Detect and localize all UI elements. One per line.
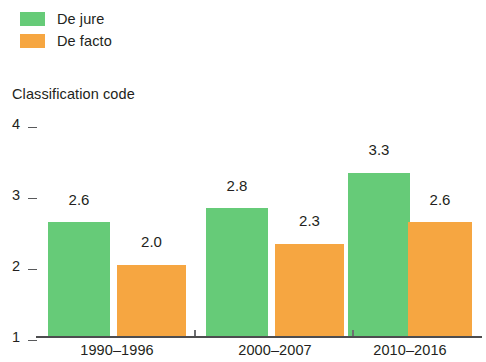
y-tick-dash: [28, 340, 37, 342]
bar-value-de-jure-1990-1996: 2.6: [48, 192, 110, 207]
x-axis-tick-2: [352, 330, 354, 336]
bar-de-facto-2000-2007[interactable]: [275, 244, 344, 336]
bar-chart: De jure De facto Classification code 4 3…: [0, 0, 486, 362]
y-tick-dash: [28, 127, 37, 129]
x-axis-line: [36, 336, 482, 338]
plot-area: 4 3 2 1 2.6 2.0 2.8 2.3 3.3 2.6: [0, 0, 486, 362]
bar-value-de-jure-2000-2007: 2.8: [206, 178, 268, 193]
y-tick-3: 3: [12, 186, 46, 204]
bar-value-de-jure-2010-2016: 3.3: [348, 142, 410, 157]
bar-de-facto-2010-2016[interactable]: [408, 222, 472, 336]
bar-value-de-facto-2010-2016: 2.6: [408, 192, 472, 207]
x-axis-label-2010-2016: 2010–2016: [348, 342, 472, 358]
y-tick-4: 4: [12, 115, 46, 133]
bar-value-de-facto-2000-2007: 2.3: [275, 213, 344, 228]
y-tick-dash: [28, 198, 37, 200]
bar-de-jure-2000-2007[interactable]: [206, 208, 268, 336]
x-axis-label-2000-2007: 2000–2007: [206, 342, 344, 358]
bar-de-facto-1990-1996[interactable]: [117, 265, 186, 336]
bar-value-de-facto-1990-1996: 2.0: [117, 234, 186, 249]
x-axis-tick-1: [194, 330, 196, 336]
y-tick-dash: [28, 269, 37, 271]
y-tick-2: 2: [12, 257, 46, 275]
bar-de-jure-1990-1996[interactable]: [48, 222, 110, 336]
bar-de-jure-2010-2016[interactable]: [348, 173, 410, 336]
x-axis-label-1990-1996: 1990–1996: [48, 342, 186, 358]
